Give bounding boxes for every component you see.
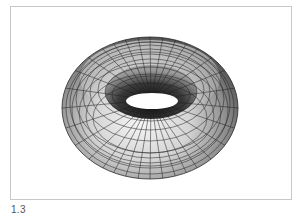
torus-illustration [0, 0, 305, 221]
figure-caption: 1.3 [11, 204, 26, 215]
torus-hole [126, 93, 178, 109]
